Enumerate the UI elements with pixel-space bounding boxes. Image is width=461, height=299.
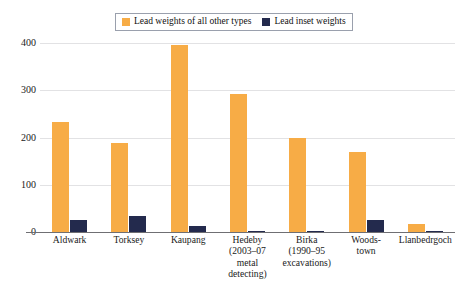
legend-swatch-secondary <box>262 18 270 26</box>
x-tick-label-line: excavations) <box>277 257 336 268</box>
x-tick-label-line: detecting) <box>218 268 277 279</box>
x-tick-label-line: Hedeby <box>218 234 277 245</box>
legend-label-primary: Lead weights of all other types <box>134 16 251 27</box>
x-tick-label-line: Birka <box>277 234 336 245</box>
bar-group <box>408 0 443 232</box>
bar-group <box>171 0 206 232</box>
bar-secondary[interactable] <box>426 231 443 232</box>
x-tick-label: Llanbedrgoch <box>396 234 455 245</box>
bar-secondary[interactable] <box>129 216 146 232</box>
bar-secondary[interactable] <box>248 231 265 232</box>
x-tick-label-line: metal <box>218 257 277 268</box>
legend-swatch-primary <box>122 18 130 26</box>
y-tick-label: 200 <box>2 133 36 143</box>
x-tick-label: Birka(1990–95excavations) <box>277 234 336 268</box>
legend-item-lead-weights-other-types: Lead weights of all other types <box>122 16 251 27</box>
bar-chart: Lead weights of all other types Lead ins… <box>0 0 461 299</box>
y-tick-label: 100 <box>2 180 36 190</box>
legend-item-lead-inset-weights: Lead inset weights <box>262 16 345 27</box>
bar-secondary[interactable] <box>367 220 384 232</box>
x-tick-label-line: Kaupang <box>159 234 218 245</box>
bar-secondary[interactable] <box>189 226 206 232</box>
bar-primary[interactable] <box>230 94 247 232</box>
x-tick-label-line: Torksey <box>99 234 158 245</box>
bar-secondary[interactable] <box>307 231 324 232</box>
x-tick-label-line: (2003–07 <box>218 245 277 256</box>
y-axis: 0100200300400 <box>0 43 36 233</box>
bar-primary[interactable] <box>171 45 188 232</box>
x-tick-label: Hedeby(2003–07metaldetecting) <box>218 234 277 280</box>
bar-primary[interactable] <box>408 224 425 233</box>
x-tick-label-line: (1990–95 <box>277 245 336 256</box>
bar-group <box>230 0 265 232</box>
bar-group <box>52 0 87 232</box>
x-axis-labels: AldwarkTorkseyKaupangHedeby(2003–07metal… <box>40 234 455 298</box>
y-tick-label: 300 <box>2 85 36 95</box>
x-tick-label: Aldwark <box>40 234 99 245</box>
chart-legend: Lead weights of all other types Lead ins… <box>115 13 353 31</box>
bar-group <box>111 0 146 232</box>
bar-secondary[interactable] <box>70 220 87 232</box>
x-tick-label: Kaupang <box>159 234 218 245</box>
x-tick-label-line: town <box>336 245 395 256</box>
bar-primary[interactable] <box>111 143 128 232</box>
bar-primary[interactable] <box>52 122 69 232</box>
legend-label-secondary: Lead inset weights <box>274 16 345 27</box>
x-tick-label-line: Aldwark <box>40 234 99 245</box>
x-tick-label: Torksey <box>99 234 158 245</box>
y-tick-label: 400 <box>2 38 36 48</box>
bar-primary[interactable] <box>289 138 306 233</box>
bar-primary[interactable] <box>349 152 366 232</box>
x-tick-label-line: Woods- <box>336 234 395 245</box>
bar-group <box>349 0 384 232</box>
x-tick-label-line: Llanbedrgoch <box>396 234 455 245</box>
bars-layer <box>40 0 455 232</box>
x-tick-label: Woods-town <box>336 234 395 257</box>
x-axis-line <box>26 232 455 233</box>
bar-group <box>289 0 324 232</box>
